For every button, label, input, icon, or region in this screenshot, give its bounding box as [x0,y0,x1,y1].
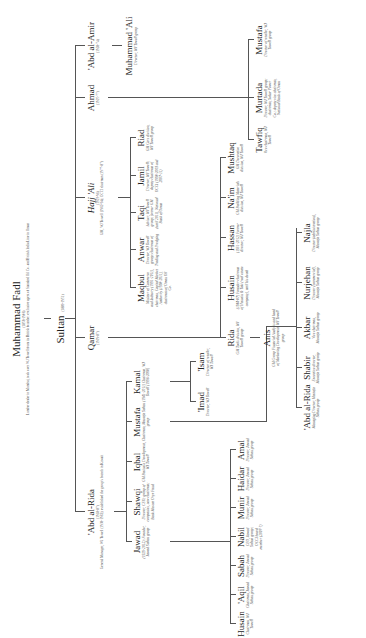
connector [170,421,266,422]
name: Haidar [236,465,246,493]
grandchild-nabil: NabilCEO, Jawad Sultan group; OCCI board… [236,523,264,551]
desc: Vice chairman, WJ Towell [264,123,273,157]
desc: Director (administration), Mustafa Sulta… [312,213,321,253]
desc: GM Building Materials division, WJ Towel… [236,181,245,215]
bar [248,40,249,140]
grandchild-munir: MunirDirector, Jawad Sultan group [236,494,255,522]
desc: Director, WJ Towell; deputy chairman of … [146,159,164,193]
grandchild-akbar: AkbarVice chairman, Mustafa Sultan group [302,311,321,345]
child-rida: RidaGM Tools division, WJ Towell group [226,318,245,358]
bar [296,228,297,408]
desc: Director, Jawad Sultan group [246,465,255,493]
name: Akbar [302,311,312,345]
child-riad: RiadGM Cars division, WJ Towell group [136,122,155,154]
desc: Chairman, Mustafa Sultan group [142,402,151,442]
desc: (1951-2012) Former director, WJ Towell [236,220,245,256]
name: 'Imad [196,386,206,418]
name: Mustafa [132,402,142,442]
child-kamal: Kamal (1941-2011) Chairman, WJ Towell (1… [132,362,151,402]
grandchild-shabir: ShabirExecutive director, Mustafa Sultan… [302,351,321,385]
name: Maqbul [136,269,146,307]
bar [230,450,231,624]
bar [190,362,191,402]
name: Taqi [136,196,146,230]
desc: (1941-2011) Chairman, WJ Towell (1996-20… [142,362,151,402]
name: 'Abd al-Amir [86,22,96,70]
grandchild-muhammad-ali: Muhammad 'AliDirector, WJ Towell group [124,6,138,86]
desc: (1929-2012); Founder, Jawad Sultan group [142,522,151,562]
desc: Director of retailer, WJ Towell [206,346,215,378]
name: Iqbal [132,442,142,482]
gen2-qamar: Qamar (1919-87) [86,326,100,351]
name: Tawfiq [254,123,264,157]
grandchild-mustafa: MustafaDirector of retailer, WJ Towell g… [254,22,273,58]
name: Jamil [136,159,146,193]
grandchild-murtada: MurtadaDirector, WJ Towell group; chairm… [254,78,282,118]
name: Mushtaq [226,141,236,175]
grandchild-tawfiq: TawfiqVice chairman, WJ Towell [254,123,273,157]
name: Jawad [132,522,142,562]
name: 'Abd al-Rida [302,386,312,430]
desc: Director, Jawad Sultan group [246,552,255,580]
dates: (1925-77) [96,85,100,112]
desc: Director (commercial), Mustafa Sultan gr… [312,263,321,303]
family-tree-diagram: Muhammad Fadl (1858-1906) Lumber dealer … [0,0,366,638]
child-jawad: Jawad (1929-2012); Founder, Jawad Sultan… [132,522,151,562]
name: Anis [262,308,272,368]
name: Husain [226,266,236,310]
desc: (1944-87) Founder-chairman of Hussain & … [236,266,249,310]
root-node: Muhammad Fadl (1858-1906) Lumber dealer … [10,189,30,449]
caption: General Manager, WJ Towell (1938-1962); … [100,412,104,612]
name: Najla [302,213,312,253]
desc: Executive director, Mustafa Sultan group [312,351,321,385]
connector [75,45,85,46]
name: Husain [236,610,246,638]
connector [250,337,260,338]
name: Qamar [86,326,96,351]
gen2-ahmad: Ahmad (1925-77) [86,85,100,112]
sultan-name: Sultan [54,315,66,343]
grandchild-abd-al-rida: 'Abd al-RidaManaging Director, Mustafa S… [302,386,321,430]
sultan-node: Sultan (1889-1951) [50,294,68,343]
grandchild-isam: 'IsamDirector of retailer, WJ Towell [196,346,215,378]
name: Rida [226,318,236,358]
name: Muhammad 'Ali [124,6,134,86]
desc: CEO, Jawad Sultan group; OCCI board memb… [246,523,264,551]
name: 'Isam [196,346,206,378]
desc: Director of retailer, WJ Towell group [264,22,273,58]
connector [170,541,230,542]
grandchild-najla: NajlaDirector (administration), Mustafa … [302,213,321,253]
name: 'Abd al-Rida [86,412,96,612]
name: Hajj 'Ali [86,118,96,278]
caption: GM, WJ Towell (1962-94); OCCI chairman (… [100,118,104,278]
grandchild-haidar: HaidarDirector, Jawad Sultan group [236,465,255,493]
name: Murtada [254,78,264,118]
desc: GM Cars division, WJ Towell group [146,122,155,154]
gen2-abd-al-amir: 'Abd al-Amir (1928-74) [86,22,100,70]
name: Shawqi [132,482,142,522]
name: Riad [136,122,146,154]
dates: (1919-87) [96,326,100,351]
desc: Director, WJ Towell group; chairman of T… [146,233,159,267]
bar [126,382,127,542]
connector [75,197,85,198]
gen2-hajj-ali: Hajj 'Ali (1923-96) GM, WJ Towell (1962-… [86,118,104,278]
grandchild-husain: HusainChairman, WJ Towell [236,610,255,638]
child-naim: Na'imGM Building Materials division, WJ … [226,181,245,215]
desc: Director, Jawad Sultan group [246,436,255,464]
name: Na'im [226,181,236,215]
desc: GM Group Financial Analysis and head of … [272,308,285,368]
grandchild-imad: 'ImadDirector, WJ Towell [196,386,210,418]
connector [114,511,126,512]
name: Nurjehan [302,263,312,303]
connector [170,381,190,382]
desc: Director, WJ Towell [206,386,210,418]
desc: GM Decorative division, WJ Towell [236,141,245,175]
child-hassan: Hassan(1951-2012) Former director, WJ To… [226,220,245,256]
grandchild-nurjehan: NurjehanDirector (commercial), Mustafa S… [302,263,321,303]
connector [75,511,85,512]
child-iqbal: Iqbal GM Business Development, WJ Towell [132,442,151,482]
root-name: Muhammad Fadl [10,189,22,449]
name: Sabah [236,552,246,580]
bar [130,138,131,288]
